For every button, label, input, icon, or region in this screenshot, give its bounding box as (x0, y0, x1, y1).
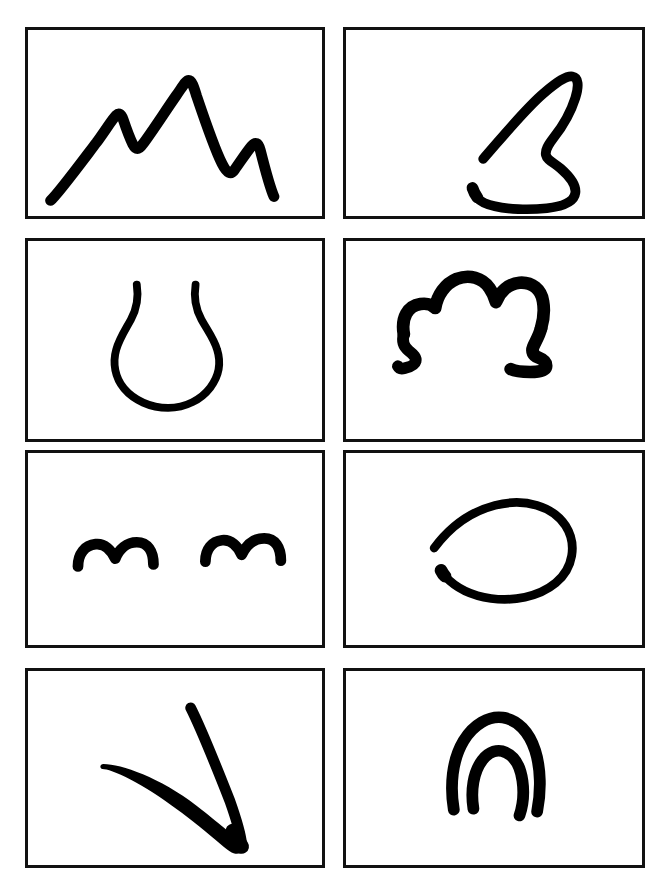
double-arch-drawing: nested double arch (346, 671, 642, 865)
panel-5-bird-pair[interactable]: two flying bird marks (25, 450, 325, 648)
inner-arch (472, 751, 523, 816)
cloud-bush-drawing: cloud bush scalloped outline (346, 241, 642, 439)
panel-6-open-oval-leaf[interactable]: open oval leaf loop (343, 450, 645, 648)
drawing-sheet: mountain range zigzag line butterfly win… (0, 0, 666, 886)
bird-mark-right (205, 538, 280, 561)
panel-1-mountain-range[interactable]: mountain range zigzag line (25, 27, 325, 219)
checkmark-v-drawing: checkmark v stroke (28, 671, 322, 865)
mountain-range-drawing: mountain range zigzag line (28, 30, 322, 216)
panel-7-checkmark-v[interactable]: checkmark v stroke (25, 668, 325, 868)
butterfly-wing-drawing: butterfly wing curve (346, 30, 642, 216)
open-oval-leaf-drawing: open oval leaf loop (346, 453, 642, 645)
vase-goblet-drawing: vase goblet outline (28, 241, 322, 439)
bird-pair-drawing: two flying bird marks (28, 453, 322, 645)
panel-2-butterfly-wing[interactable]: butterfly wing curve (343, 27, 645, 219)
bird-mark-left (78, 542, 153, 566)
panel-3-vase-goblet[interactable]: vase goblet outline (25, 238, 325, 442)
panel-4-cloud-bush[interactable]: cloud bush scalloped outline (343, 238, 645, 442)
panel-8-double-arch[interactable]: nested double arch (343, 668, 645, 868)
